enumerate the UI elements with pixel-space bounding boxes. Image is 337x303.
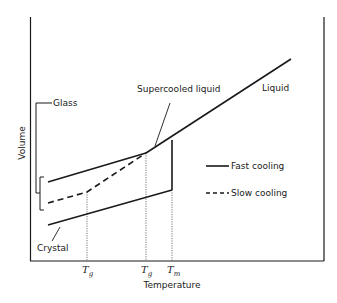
legend-item-fast: Fast cooling bbox=[206, 161, 284, 171]
glass-bracket bbox=[36, 103, 52, 210]
svg-text:Tg: Tg bbox=[141, 264, 153, 278]
liquid-line bbox=[146, 59, 291, 153]
x-axis-label: Temperature bbox=[142, 280, 200, 290]
svg-text:Slow cooling: Slow cooling bbox=[231, 188, 287, 198]
y-axis-label: Volume bbox=[17, 126, 27, 160]
svg-text:Tm: Tm bbox=[167, 264, 181, 278]
tick-tg-slow: Tg bbox=[82, 264, 94, 278]
pointers bbox=[52, 103, 170, 241]
legend: Fast cooling Slow cooling bbox=[206, 161, 287, 198]
fast-glass-line bbox=[48, 153, 146, 182]
volume-temperature-diagram: Glass Supercooled liquid Liquid Crystal … bbox=[0, 0, 337, 303]
tick-tg-fast: Tg bbox=[141, 264, 153, 278]
supercooled-liquid-label: Supercooled liquid bbox=[137, 84, 220, 94]
plot-frame bbox=[30, 17, 324, 261]
svg-text:Tg: Tg bbox=[82, 264, 94, 278]
liquid-label: Liquid bbox=[262, 83, 289, 93]
svg-text:Fast cooling: Fast cooling bbox=[231, 161, 284, 171]
crystal-label: Crystal bbox=[37, 243, 69, 253]
crystal-line bbox=[48, 190, 172, 225]
legend-item-slow: Slow cooling bbox=[206, 188, 287, 198]
crystal-pointer bbox=[52, 227, 60, 241]
glass-label: Glass bbox=[53, 98, 78, 108]
reference-lines bbox=[87, 153, 172, 261]
tick-tm: Tm bbox=[167, 264, 181, 278]
